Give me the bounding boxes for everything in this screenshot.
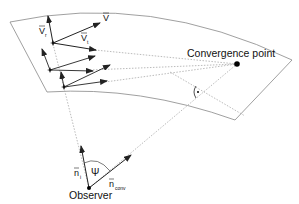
psi-label: Ψ xyxy=(91,167,99,178)
svg-text:r: r xyxy=(45,32,47,38)
right-angle-dot xyxy=(197,91,199,93)
observer-label: Observer xyxy=(69,189,113,201)
svg-text:t: t xyxy=(87,39,89,45)
n-i-label: n i xyxy=(74,168,81,180)
convergence-point-dot xyxy=(234,61,240,67)
convergence-diagram: Convergence point V V r V t n i n conv Ψ… xyxy=(0,0,299,204)
svg-text:conv: conv xyxy=(115,185,126,191)
svg-text:V: V xyxy=(103,13,109,23)
star-1 xyxy=(48,16,100,50)
v-total-label: V xyxy=(103,13,109,23)
svg-text:n: n xyxy=(74,168,79,178)
star-3 xyxy=(61,65,110,87)
star-1-marker xyxy=(50,40,56,46)
v-t-label: V t xyxy=(81,33,89,45)
svg-text:n: n xyxy=(109,179,114,189)
star-2-marker xyxy=(47,67,53,73)
sky-region-outline xyxy=(10,13,292,120)
svg-text:i: i xyxy=(80,174,81,180)
star-3-marker xyxy=(61,84,67,90)
v-r-label: V r xyxy=(39,26,47,38)
convergence-point-label: Convergence point xyxy=(187,47,275,59)
right-angle-arc xyxy=(194,86,196,98)
